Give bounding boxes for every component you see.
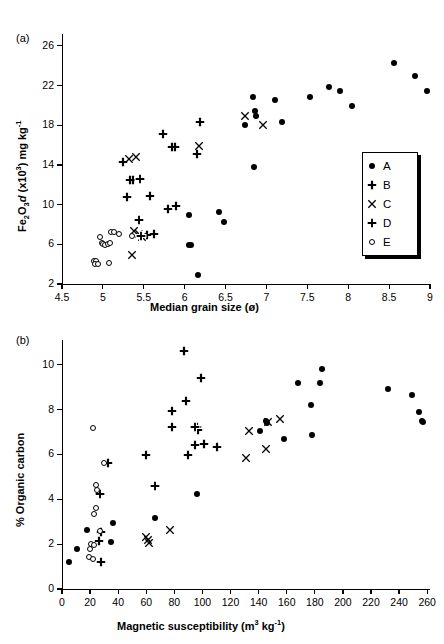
data-point-e [90, 556, 96, 562]
y-axis-line [62, 340, 63, 590]
legend-label-e: E [383, 236, 391, 248]
x-axis-tick [61, 284, 62, 289]
x-axis-tick [286, 589, 287, 594]
data-point-b [170, 143, 179, 152]
thin-cross-icon [368, 181, 377, 190]
data-point-a [188, 242, 194, 248]
data-point-b [158, 130, 167, 139]
x-axis-tick [118, 589, 119, 594]
data-point-d [133, 214, 144, 225]
x-axis-tick [258, 589, 259, 594]
x-axis-tick [89, 589, 90, 594]
x-axis-tick [266, 284, 267, 289]
legend-label-b: B [383, 179, 391, 191]
data-point-a [416, 409, 422, 415]
data-point-d [190, 422, 201, 433]
data-point-b [167, 423, 176, 432]
data-point-c [242, 454, 251, 463]
data-point-e [93, 505, 99, 511]
data-point-b [196, 118, 205, 127]
data-point-a [242, 122, 248, 128]
legend-marker-e [363, 233, 381, 251]
y-axis-tick [57, 409, 62, 410]
y-axis-tick [57, 204, 62, 205]
x-axis-tick-label: 7.5 [287, 291, 327, 303]
y-axis-tick [57, 364, 62, 365]
data-point-b [167, 406, 176, 415]
y-axis-line [62, 34, 63, 285]
data-point-a [66, 559, 72, 565]
panel-b-chart: (b) % Organic carbon 0204060801001201401… [0, 312, 444, 644]
x-axis-tick-label: 4.5 [42, 291, 82, 303]
legend-label-a: A [383, 160, 391, 172]
y-axis-tick-label: 0 [20, 582, 54, 594]
data-point-a [250, 94, 256, 100]
y-axis-tick [57, 45, 62, 46]
y-axis-tick-label: 10 [20, 358, 54, 370]
data-point-b [212, 442, 221, 451]
x-axis-tick-label: 5 [83, 291, 123, 303]
legend-item-b: B [363, 176, 417, 194]
y-axis-tick-label: 26 [20, 39, 54, 51]
y-axis-tick-label: 8 [20, 403, 54, 415]
data-point-a [257, 428, 263, 434]
x-axis-tick [184, 284, 185, 289]
data-point-e [101, 460, 107, 466]
data-point-a [319, 366, 325, 372]
data-point-b [97, 557, 106, 566]
data-point-e [97, 528, 103, 534]
data-point-a [251, 164, 257, 170]
data-point-a [308, 402, 314, 408]
data-point-a [349, 103, 355, 109]
data-point-c [241, 112, 250, 121]
data-point-b [199, 440, 208, 449]
data-point-a [391, 60, 397, 66]
data-point-e [129, 233, 135, 239]
panel-b-x-axis-title: Magnetic susceptibility (m3 kg-1) [117, 618, 285, 632]
x-axis-tick-label: 9 [410, 291, 444, 303]
data-point-a [385, 386, 391, 392]
x-axis-tick [146, 589, 147, 594]
x-axis-tick [314, 589, 315, 594]
data-point-d [135, 231, 146, 242]
data-point-b [142, 450, 151, 459]
x-axis-tick [427, 589, 428, 594]
data-point-a [412, 73, 418, 79]
x-axis-tick [225, 284, 226, 289]
legend-label-d: D [383, 217, 391, 229]
y-axis-tick-label: 2 [20, 537, 54, 549]
data-point-a [295, 380, 301, 386]
data-point-d [134, 173, 145, 184]
y-axis-tick [57, 85, 62, 86]
x-axis-tick [102, 284, 103, 289]
y-axis-tick-label: 4 [20, 492, 54, 504]
x-axis-line [62, 284, 430, 285]
legend-marker-a [363, 157, 381, 175]
y-axis-tick-label: 10 [20, 198, 54, 210]
data-point-c [166, 525, 175, 534]
data-point-a [279, 119, 285, 125]
legend-marker-d [363, 214, 381, 232]
data-point-a [108, 539, 114, 545]
data-point-b [191, 441, 200, 450]
data-point-a [337, 88, 343, 94]
y-axis-tick [57, 244, 62, 245]
data-point-c [275, 414, 284, 423]
data-point-b [146, 191, 155, 200]
data-point-a [317, 380, 323, 386]
y-axis-tick-label: 22 [20, 79, 54, 91]
data-point-c [132, 153, 141, 162]
data-point-a [253, 113, 259, 119]
y-axis-tick [57, 499, 62, 500]
y-axis-tick-label: 6 [20, 447, 54, 459]
data-point-e [91, 511, 97, 517]
data-point-a [152, 515, 158, 521]
data-point-e [94, 487, 100, 493]
x-axis-tick-label: 260 [407, 596, 444, 608]
data-point-c [259, 121, 268, 130]
data-point-a [194, 491, 200, 497]
data-point-e [90, 425, 96, 431]
data-point-e [106, 260, 112, 266]
data-point-a [74, 546, 80, 552]
data-point-a [186, 212, 192, 218]
